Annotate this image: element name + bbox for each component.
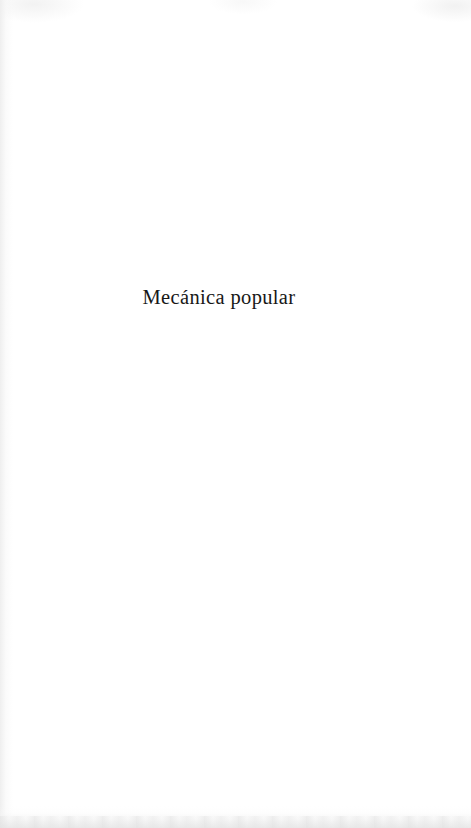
scan-artifact-bottom-edge (0, 806, 471, 828)
scan-artifact-left-gutter (0, 0, 13, 828)
scanned-page: Mecánica popular (0, 0, 471, 828)
section-title-block: Mecánica popular (0, 284, 471, 310)
section-title: Mecánica popular (142, 284, 295, 310)
scan-artifact-top-edge (0, 0, 471, 46)
